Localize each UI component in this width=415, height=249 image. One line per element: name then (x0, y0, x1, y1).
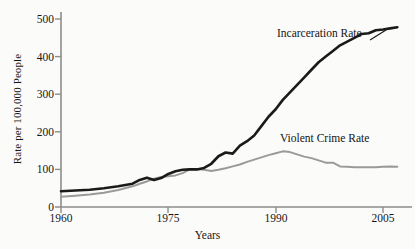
y-axis-ticks (55, 19, 61, 169)
series-label-violent-crime-rate: Violent Crime Rate (280, 132, 369, 144)
series-line-violent-crime-rate (61, 151, 397, 197)
x-tick-label: 1990 (265, 212, 288, 224)
x-tick-label: 1975 (157, 212, 180, 224)
x-axis-ticks (61, 207, 383, 213)
x-axis-label: Years (0, 229, 415, 241)
chart-figure: Rate per 100,000 People 500 400 300 200 … (0, 0, 415, 249)
series-label-incarceration-rate: Incarceration Rate (277, 27, 362, 39)
axis-lines (55, 12, 412, 207)
x-tick-label: 2005 (372, 212, 395, 224)
x-tick-label: 1960 (50, 212, 73, 224)
